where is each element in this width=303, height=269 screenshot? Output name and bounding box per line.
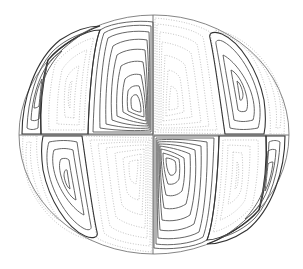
lower-half-cells [23, 136, 285, 252]
contour-plot [0, 0, 303, 269]
upper-right-inner-cell [155, 18, 225, 134]
upper-left-middle-cell [41, 30, 100, 134]
upper-right-outer-crescent [215, 30, 284, 134]
upper-right-middle-cell [210, 32, 266, 134]
upper-half-cells [22, 18, 284, 134]
